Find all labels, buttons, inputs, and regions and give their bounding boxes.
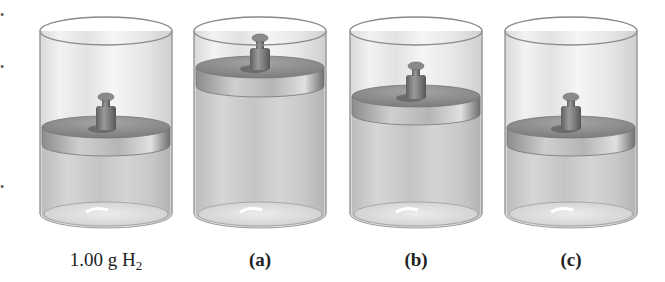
cylinder-b (350, 17, 482, 228)
label-a: (a) (200, 249, 320, 271)
cropped-text-fragment: • (0, 180, 6, 200)
cylinder-reference (40, 17, 172, 228)
cylinder-a (194, 17, 326, 228)
label-reference-main: 1.00 g H (70, 249, 136, 270)
label-b: (b) (356, 249, 476, 271)
gas-cylinders-figure (0, 0, 665, 282)
cropped-text-fragment: • (0, 8, 6, 28)
cylinder-c (505, 17, 637, 228)
label-reference: 1.00 g H2 (46, 249, 166, 274)
cropped-text-fragment: • (0, 60, 6, 80)
label-c: (c) (511, 249, 631, 271)
label-reference-subscript: 2 (136, 258, 143, 273)
